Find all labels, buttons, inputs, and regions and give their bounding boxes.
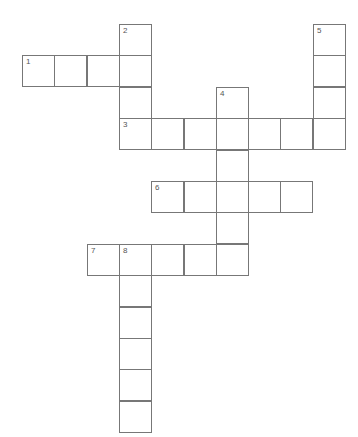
crossword-cell[interactable] <box>119 338 152 370</box>
crossword-cell[interactable] <box>119 307 152 339</box>
crossword-cell[interactable]: 2 <box>119 24 152 56</box>
clue-number: 1 <box>26 58 30 66</box>
crossword-cell[interactable] <box>54 55 87 87</box>
crossword-cell[interactable] <box>119 87 152 119</box>
crossword-cell[interactable] <box>216 118 249 150</box>
crossword-grid: 12345678 <box>0 0 358 437</box>
crossword-cell[interactable] <box>248 181 281 213</box>
crossword-cell[interactable]: 4 <box>216 87 249 119</box>
crossword-cell[interactable]: 5 <box>313 24 346 56</box>
clue-number: 5 <box>317 27 321 35</box>
clue-number: 3 <box>123 121 127 129</box>
crossword-cell[interactable] <box>119 401 152 433</box>
crossword-cell[interactable] <box>184 118 217 150</box>
crossword-cell[interactable] <box>313 118 346 150</box>
crossword-cell[interactable] <box>119 275 152 307</box>
crossword-cell[interactable] <box>280 181 313 213</box>
crossword-cell[interactable]: 1 <box>22 55 55 87</box>
crossword-cell[interactable] <box>280 118 313 150</box>
crossword-cell[interactable] <box>248 118 281 150</box>
clue-number: 7 <box>91 247 95 255</box>
crossword-cell[interactable] <box>151 118 184 150</box>
crossword-cell[interactable] <box>216 212 249 244</box>
crossword-cell[interactable] <box>184 181 217 213</box>
clue-number: 6 <box>155 184 159 192</box>
crossword-cell[interactable] <box>216 150 249 182</box>
crossword-cell[interactable] <box>216 181 249 213</box>
clue-number: 8 <box>123 247 127 255</box>
clue-number: 4 <box>220 90 224 98</box>
crossword-cell[interactable] <box>216 244 249 276</box>
crossword-cell[interactable] <box>184 244 217 276</box>
crossword-cell[interactable] <box>87 55 120 87</box>
crossword-cell[interactable] <box>151 244 184 276</box>
crossword-cell[interactable] <box>119 55 152 87</box>
clue-number: 2 <box>123 27 127 35</box>
crossword-cell[interactable]: 3 <box>119 118 152 150</box>
crossword-cell[interactable]: 7 <box>87 244 120 276</box>
crossword-cell[interactable]: 8 <box>119 244 152 276</box>
crossword-cell[interactable] <box>313 87 346 119</box>
crossword-cell[interactable] <box>119 369 152 401</box>
crossword-cell[interactable] <box>313 55 346 87</box>
crossword-cell[interactable]: 6 <box>151 181 184 213</box>
